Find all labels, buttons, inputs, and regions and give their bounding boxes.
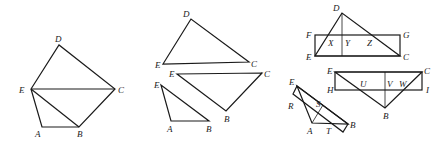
pentagon-outline [31, 45, 115, 127]
label-d: D [182, 9, 190, 19]
triangle-eab [297, 86, 348, 124]
label-z: Z [367, 38, 373, 48]
label-b: B [224, 114, 230, 124]
label-d: D [54, 34, 62, 44]
label-y: Y [345, 38, 351, 48]
label-c: C [264, 69, 271, 79]
label-h: H [326, 85, 334, 95]
label-c: C [403, 52, 410, 62]
label-c: C [251, 59, 258, 69]
label-e: E [288, 77, 295, 87]
label-e: E [154, 60, 161, 70]
label-e: E [168, 69, 175, 79]
triangle-dec [163, 19, 249, 64]
label-d: D [332, 3, 340, 13]
label-b: B [206, 124, 212, 134]
triangle-ecb [177, 73, 262, 111]
label-e: E [153, 80, 160, 90]
label-a: A [166, 124, 173, 134]
label-r: R [287, 101, 294, 111]
label-e: E [18, 85, 25, 95]
label-e: E [326, 66, 333, 76]
constructions-figure: D F G E C X Y Z E C H I B U V W E R S A … [287, 3, 431, 136]
label-b: B [77, 129, 83, 139]
label-f: F [305, 30, 312, 40]
label-g: G [403, 30, 410, 40]
pentagon-figure: D E C A B [18, 34, 125, 139]
label-i: I [425, 85, 430, 95]
label-v: V [387, 79, 394, 89]
label-c: C [424, 66, 431, 76]
label-b: B [350, 120, 356, 130]
label-s: S [316, 99, 321, 109]
triangle-eab [161, 85, 209, 121]
label-c: C [118, 85, 125, 95]
triangles-figure: D E C E C B E A B [153, 9, 271, 134]
label-u: U [360, 79, 367, 89]
label-x: X [327, 38, 334, 48]
label-a: A [306, 126, 313, 136]
diagonal-eb [31, 89, 79, 127]
label-a: A [34, 129, 41, 139]
label-b: B [383, 111, 389, 121]
geometry-diagram: D E C A B D E C E C B E A B D F G E C X … [0, 0, 445, 142]
label-e: E [305, 52, 312, 62]
label-t: T [326, 126, 332, 136]
